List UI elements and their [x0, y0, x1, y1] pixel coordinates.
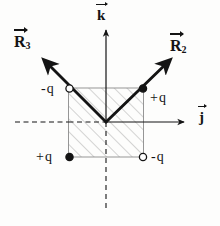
- vector-R2-symbol: R: [170, 38, 182, 54]
- charge-marker-top-left-open: [66, 85, 73, 92]
- axis-k-symbol: k: [97, 8, 105, 23]
- charge-label-top-left: -q: [41, 82, 55, 96]
- vector-label-R3: R3: [14, 34, 31, 51]
- axis-label-j: j: [199, 110, 204, 125]
- vector-R3-symbol: R: [14, 34, 26, 50]
- charge-marker-bottom-right-open: [139, 153, 146, 160]
- charge-marker-top-right-filled: [139, 85, 146, 92]
- charge-marker-bottom-left-filled: [66, 153, 73, 160]
- physics-diagram-figure: R3 R2 k j -q +q +q -q: [0, 0, 220, 226]
- charge-label-bottom-left: +q: [36, 150, 53, 164]
- vector-label-R2: R2: [170, 38, 187, 55]
- vector-R3-subscript: 3: [26, 40, 31, 51]
- charge-label-top-right: +q: [150, 91, 167, 105]
- axis-j-symbol: j: [199, 110, 204, 125]
- diagram-canvas: [0, 0, 220, 226]
- axis-label-k: k: [97, 8, 105, 23]
- charge-label-bottom-right: -q: [151, 150, 165, 164]
- vector-R2-subscript: 2: [182, 44, 187, 55]
